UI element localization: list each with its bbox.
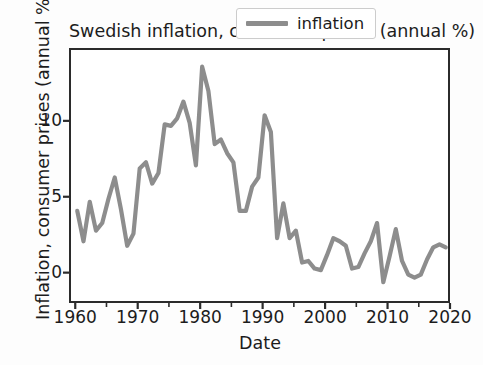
x-tick-label: 1980 xyxy=(165,307,235,327)
x-tick-label: 2000 xyxy=(290,307,360,327)
chart-figure: Swedish inflation, consumer prices (annu… xyxy=(0,0,483,365)
x-tick-label: 2020 xyxy=(415,307,483,327)
legend-line-swatch xyxy=(246,21,288,26)
x-tick-label: 2010 xyxy=(353,307,423,327)
x-tick-labels: 1960197019801990200020102020 xyxy=(0,0,483,365)
x-tick-label: 1960 xyxy=(40,307,110,327)
x-tick-label: 1990 xyxy=(228,307,298,327)
x-tick-label: 1970 xyxy=(103,307,173,327)
chart-legend[interactable]: inflation xyxy=(236,8,376,39)
legend-label-inflation: inflation xyxy=(297,15,364,32)
